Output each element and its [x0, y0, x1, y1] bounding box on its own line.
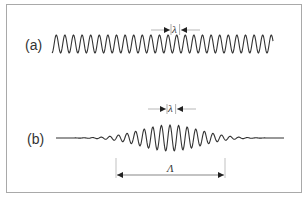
- wave-plot: λ λ Λ: [0, 0, 306, 199]
- lambda-annotation-b: λ: [148, 102, 196, 114]
- wave-packet: [56, 125, 284, 151]
- wave-figure: (a) (b) λ λ: [0, 0, 306, 199]
- lambda-annotation-a: λ: [151, 23, 200, 35]
- continuous-wave: [52, 35, 273, 53]
- envelope-width-symbol: Λ: [166, 162, 174, 174]
- envelope-width-annotation: Λ: [116, 158, 225, 178]
- lambda-symbol-a: λ: [171, 23, 177, 35]
- lambda-symbol-b: λ: [167, 102, 173, 114]
